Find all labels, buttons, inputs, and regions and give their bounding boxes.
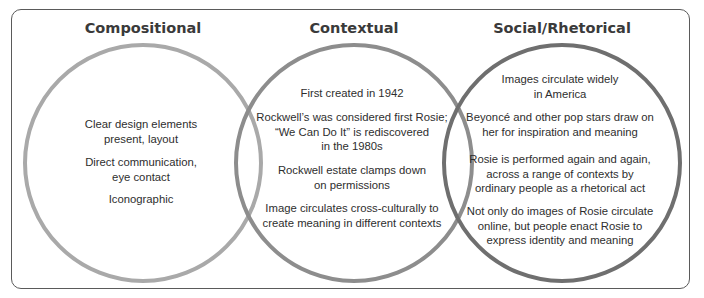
compositional-item: Iconographic [31, 192, 251, 207]
contextual-item: Image circulates cross-culturally tocrea… [232, 201, 472, 230]
contextual-item: Rockwell estate clamps downon permission… [232, 163, 472, 192]
contextual-item: First created in 1942 [232, 86, 472, 101]
contextual-item: Rockwell’s was considered first Rosie;“W… [232, 110, 472, 154]
social-rhetorical-title: Social/Rhetorical [452, 20, 672, 36]
contextual-title: Contextual [244, 20, 464, 36]
social-rhetorical-item: Beyoncé and other pop stars draw onher f… [440, 110, 680, 139]
compositional-title: Compositional [33, 20, 253, 36]
social-rhetorical-item: Images circulate widelyin America [440, 72, 680, 101]
compositional-item: Direct communication,eye contact [31, 155, 251, 184]
compositional-item: Clear design elementspresent, layout [31, 117, 251, 146]
social-rhetorical-item: Not only do images of Rosie circulateonl… [440, 204, 680, 248]
social-rhetorical-item: Rosie is performed again and again,acros… [440, 152, 680, 196]
